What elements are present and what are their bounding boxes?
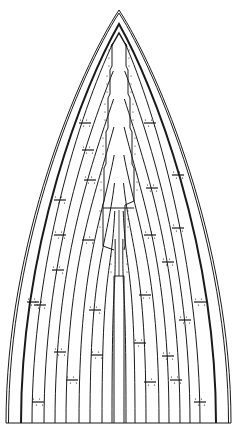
fastener-dot [92, 242, 93, 243]
fastener-dot [80, 119, 81, 120]
fastener-dot [176, 177, 177, 178]
fastener-dot [132, 103, 133, 104]
fastener-dot [36, 404, 37, 405]
fastener-dot [99, 210, 100, 211]
fastener-dot [106, 91, 107, 92]
fastener-dot [108, 57, 109, 58]
fastener-dot [41, 301, 42, 302]
fastener-dot [132, 119, 133, 120]
fastener-dot [179, 224, 180, 225]
fastener-dot [44, 307, 45, 308]
fastener-dot [62, 272, 63, 273]
fastener-dot [108, 49, 109, 50]
fastener-dot [127, 218, 128, 219]
fastener-dot [149, 297, 150, 298]
fastener-dot [104, 119, 105, 120]
fastener-dot [146, 291, 147, 292]
fastener-dot [140, 291, 141, 292]
fastener-dot [110, 255, 111, 256]
fastener-dot [128, 65, 129, 66]
fastener-dot [96, 306, 97, 307]
fastener-dot [55, 196, 56, 197]
fastener-dot [76, 382, 77, 383]
fastener-dot [169, 352, 170, 353]
fastener-dot [130, 75, 131, 76]
fastener-dot [56, 272, 57, 273]
fastener-dot [130, 91, 131, 92]
fastener-dot [177, 376, 178, 377]
fastener-dot [143, 297, 144, 298]
fastener-dot [204, 304, 205, 305]
fastener-dot [174, 382, 175, 383]
fastener-dot [166, 358, 167, 359]
fastener-dot [128, 57, 129, 58]
fastener-dot [148, 125, 149, 126]
fastener-dot [148, 237, 149, 238]
fastener-dot [145, 231, 146, 232]
fastener-dot [37, 304, 38, 305]
fastener-dot [28, 298, 29, 299]
fastener-dot [182, 177, 183, 178]
fastener-dot [182, 230, 183, 231]
fastener-dot [83, 146, 84, 147]
outer-edge-inner-line [9, 13, 229, 423]
fastener-dot [163, 258, 164, 259]
fastener-dot [38, 307, 39, 308]
fastener-dot [73, 376, 74, 377]
fastener-dot [127, 210, 128, 211]
fastener-dot [64, 202, 65, 203]
fastener-dot [172, 358, 173, 359]
fastener-dot [89, 236, 90, 237]
fastener-dot [151, 231, 152, 232]
fastener-dot [100, 181, 101, 182]
fastener-dot [33, 398, 34, 399]
fastener-dot [110, 263, 111, 264]
fastener-dot [147, 184, 148, 185]
fastener-dot [134, 137, 135, 138]
fastener-dot [172, 264, 173, 265]
fastener-dot [126, 263, 127, 264]
fastener-dot [102, 145, 103, 146]
fastener-dot [163, 352, 164, 353]
fastener-dot [93, 312, 94, 313]
fastener-dot [134, 153, 135, 154]
fastener-dot [173, 224, 174, 225]
fastener-dot [83, 236, 84, 237]
fastener-dot [198, 304, 199, 305]
fastener-dot [42, 404, 43, 405]
fastener-dot [183, 322, 184, 323]
fastener-dot [99, 312, 100, 313]
fastener-dot [110, 271, 111, 272]
fastener-dot [61, 196, 62, 197]
fastener-dot [166, 264, 167, 265]
fastener-dot [92, 152, 93, 153]
fastener-dot [100, 189, 101, 190]
fastener-dot [99, 226, 100, 227]
strake-seam-left [32, 43, 113, 423]
fastener-dot [136, 189, 137, 190]
fastener-dot [154, 125, 155, 126]
fastener-dot [64, 354, 65, 355]
fastener-dot [141, 339, 142, 340]
fastener-dot [59, 266, 60, 267]
fastener-dot [89, 125, 90, 126]
fastener-dot [201, 298, 202, 299]
fastener-dot [31, 304, 32, 305]
fastener-dot [67, 376, 68, 377]
fastener-dot [169, 258, 170, 259]
strake-seam-left [55, 99, 114, 423]
fastener-dot [70, 382, 71, 383]
fastener-dot [108, 65, 109, 66]
fastener-dot [153, 184, 154, 185]
fastener-dot [144, 345, 145, 346]
fastener-dot [102, 137, 103, 138]
fastener-dot [58, 354, 59, 355]
fastener-dot [61, 231, 62, 232]
fastener-dot [173, 171, 174, 172]
fastener-dot [91, 176, 92, 177]
fastener-dot [55, 231, 56, 232]
chine-line [21, 24, 216, 423]
planking-drawing [0, 0, 237, 430]
fastener-dot [64, 237, 65, 238]
fastener-dot [136, 173, 137, 174]
